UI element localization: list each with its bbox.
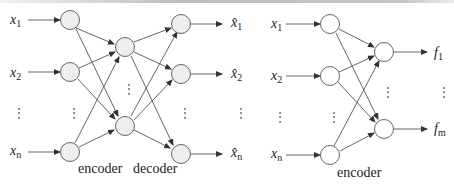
input-label-xn: xn bbox=[9, 143, 21, 160]
ellipsis-icon: ⋮ bbox=[179, 106, 191, 120]
edge bbox=[76, 29, 118, 116]
edge bbox=[134, 28, 171, 42]
input-label-x1: x1 bbox=[270, 16, 282, 33]
input-label-x2: x2 bbox=[270, 68, 282, 85]
edge bbox=[79, 130, 114, 147]
output-label-xhat2: x̂2 bbox=[230, 66, 242, 83]
edge bbox=[339, 56, 374, 72]
encoder-caption: encoder bbox=[337, 165, 382, 180]
input-node bbox=[321, 15, 340, 34]
input-node bbox=[321, 146, 340, 165]
edge bbox=[334, 61, 379, 146]
ellipsis-icon: ⋮ bbox=[274, 110, 286, 124]
output-node bbox=[172, 65, 191, 84]
input-label-x1: x1 bbox=[9, 12, 21, 29]
input-node bbox=[321, 67, 340, 86]
feature-node bbox=[375, 120, 394, 139]
ellipsis-icon: ⋮ bbox=[13, 106, 25, 120]
input-node bbox=[61, 143, 80, 162]
encoder-network bbox=[286, 24, 427, 155]
edge bbox=[79, 52, 115, 68]
decoder-caption: decoder bbox=[133, 161, 178, 176]
input-node bbox=[61, 11, 80, 30]
hidden-node bbox=[116, 117, 135, 136]
edge bbox=[340, 133, 374, 151]
input-label-x2: x2 bbox=[9, 65, 21, 82]
encoder-caption: encoder bbox=[78, 161, 123, 176]
output-node bbox=[172, 15, 191, 34]
output-label-f1: f1 bbox=[434, 45, 443, 62]
ellipsis-icon: ⋮ bbox=[235, 106, 247, 120]
input-node bbox=[61, 63, 80, 82]
output-label-xhatn: x̂n bbox=[230, 145, 242, 162]
output-label-fm: fm bbox=[434, 121, 446, 138]
ellipsis-icon: ⋮ bbox=[68, 106, 80, 120]
ellipsis-icon: ⋮ bbox=[328, 110, 340, 124]
edge bbox=[134, 130, 170, 148]
input-label-xn: xn bbox=[270, 146, 282, 163]
edge bbox=[131, 32, 177, 116]
output-label-xhat1: x̂1 bbox=[230, 15, 242, 32]
neural-network-diagram: x1 x2 xn x̂1 x̂2 x̂n ⋮ ⋮ ⋮ ⋮ ⋮ encoder d… bbox=[0, 0, 454, 186]
feature-node bbox=[375, 43, 394, 62]
ellipsis-icon: ⋮ bbox=[438, 85, 450, 99]
edge bbox=[339, 29, 374, 47]
edge bbox=[134, 52, 171, 69]
ellipsis-icon: ⋮ bbox=[123, 82, 135, 96]
edge bbox=[75, 57, 119, 143]
hidden-node bbox=[116, 38, 135, 57]
ellipsis-icon: ⋮ bbox=[382, 85, 394, 99]
